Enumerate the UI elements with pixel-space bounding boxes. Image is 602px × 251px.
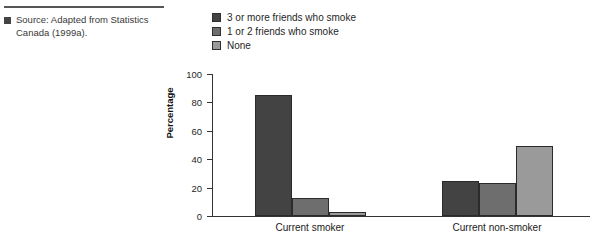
y-axis-tick-mark xyxy=(207,131,212,132)
y-axis-tick-mark xyxy=(207,216,212,217)
y-axis-tick-label: 20 xyxy=(191,182,202,193)
y-axis-tick-label: 100 xyxy=(186,69,202,80)
y-axis-tick-label: 60 xyxy=(191,125,202,136)
y-axis-title: Percentage xyxy=(164,87,175,138)
x-axis-category-label: Current smoker xyxy=(276,222,345,233)
y-axis-tick-mark xyxy=(207,188,212,189)
y-axis-tick-labels: 020406080100 xyxy=(178,0,202,251)
y-axis-tick-mark xyxy=(207,102,212,103)
bar xyxy=(516,146,553,216)
bar xyxy=(255,95,292,216)
y-axis-line xyxy=(212,74,213,217)
bar xyxy=(292,198,329,216)
x-axis-line xyxy=(212,216,590,217)
y-axis-tick-mark xyxy=(207,74,212,75)
y-axis-tick-label: 80 xyxy=(191,97,202,108)
y-axis-tick-label: 40 xyxy=(191,154,202,165)
bar-chart: Percentage 020406080100 Current smokerCu… xyxy=(0,0,602,251)
bar xyxy=(442,181,479,217)
y-axis-tick-mark xyxy=(207,159,212,160)
bar xyxy=(479,183,516,216)
x-axis-category-label: Current non-smoker xyxy=(453,222,542,233)
bar xyxy=(329,212,366,216)
y-axis-tick-label: 0 xyxy=(197,211,202,222)
